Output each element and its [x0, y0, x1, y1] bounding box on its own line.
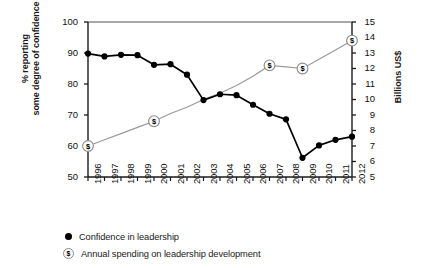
spending-marker: $ — [83, 141, 94, 152]
confidence-marker — [167, 61, 173, 67]
confidence-marker — [349, 134, 355, 140]
confidence-marker — [85, 51, 91, 57]
legend-item-spending: $ Annual spending on leadership developm… — [63, 245, 260, 262]
confidence-marker — [283, 116, 289, 122]
confidence-marker — [217, 91, 223, 97]
confidence-marker — [233, 92, 239, 98]
spending-marker: $ — [149, 116, 160, 127]
spending-marker: $ — [347, 35, 358, 46]
confidence-marker — [316, 142, 322, 148]
legend-label-confidence: Confidence in leadership — [79, 232, 179, 242]
confidence-marker — [184, 72, 190, 78]
chart-figure: % reporting some degree of confidence Bi… — [0, 0, 426, 268]
confidence-marker — [332, 137, 338, 143]
confidence-marker — [266, 111, 272, 117]
confidence-marker — [134, 52, 140, 58]
confidence-marker — [299, 155, 305, 161]
spending-marker: $ — [297, 63, 308, 74]
legend-item-confidence: Confidence in leadership — [63, 228, 260, 245]
filled-circle-icon — [65, 233, 72, 240]
confidence-marker — [200, 97, 206, 103]
confidence-marker — [101, 53, 107, 59]
confidence-marker — [118, 52, 124, 58]
series-line-confidence — [88, 54, 352, 158]
confidence-marker — [151, 62, 157, 68]
confidence-marker — [250, 102, 256, 108]
dollar-circle-icon: $ — [63, 248, 74, 259]
chart-legend: Confidence in leadership $ Annual spendi… — [63, 228, 260, 262]
spending-marker: $ — [264, 60, 275, 71]
legend-label-spending: Annual spending on leadership developmen… — [81, 249, 260, 259]
